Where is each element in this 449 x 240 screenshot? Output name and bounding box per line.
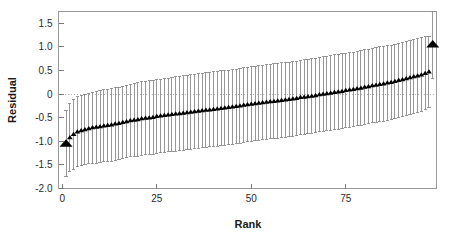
y-tick-label: 1.0 <box>39 41 53 52</box>
y-tick-label: 1.5 <box>39 18 53 29</box>
y-tick-label: 0 <box>47 89 53 100</box>
chart-canvas: 1.51.00.50-0.5-1.0-1.5-2.0 0255075 Resid… <box>0 0 449 240</box>
residual-rank-chart-figure: 1.51.00.50-0.5-1.0-1.5-2.0 0255075 Resid… <box>0 0 449 240</box>
y-tick-label: -1.5 <box>35 159 53 170</box>
y-axis-title: Residual <box>6 77 18 123</box>
y-tick-label: 0.5 <box>39 65 53 76</box>
y-tick-label: -1.0 <box>35 136 53 147</box>
x-tick-label: 0 <box>59 193 65 204</box>
x-axis-title: Rank <box>235 218 263 230</box>
x-tick-label: 50 <box>246 193 258 204</box>
x-tick-label: 25 <box>151 193 163 204</box>
y-tick-label: -0.5 <box>35 112 53 123</box>
x-tick-label: 75 <box>340 193 352 204</box>
y-tick-label: -2.0 <box>35 183 53 194</box>
